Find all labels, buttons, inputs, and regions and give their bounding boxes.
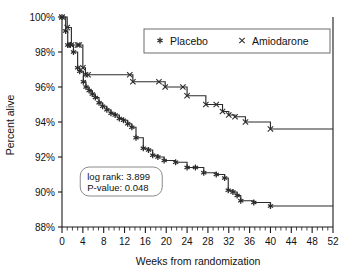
x-tick-label: 40 (265, 236, 277, 247)
statistics-box-line: P-value: 0.048 (87, 182, 148, 193)
x-tick-label: 20 (161, 236, 173, 247)
x-tick-label: 4 (80, 236, 86, 247)
x-tick-label: 52 (327, 236, 339, 247)
x-tick-label: 28 (202, 236, 214, 247)
x-tick-label: 48 (307, 236, 319, 247)
y-tick-label: 90% (35, 187, 55, 198)
y-tick-label: 88% (35, 222, 55, 233)
survival-chart: 88%90%92%94%96%98%100% 04812162024283236… (0, 0, 347, 274)
x-tick-label: 32 (223, 236, 235, 247)
legend-label-amiodarone: Amiodarone (252, 35, 309, 47)
chart-legend: PlaceboAmiodarone (144, 29, 330, 53)
x-tick-label: 0 (59, 236, 65, 247)
y-tick-label: 96% (35, 82, 55, 93)
x-tick-label: 8 (101, 236, 107, 247)
x-tick-label: 12 (119, 236, 131, 247)
x-axis-title: Weeks from randomization (136, 255, 261, 267)
y-tick-label: 100% (29, 12, 55, 23)
y-axis-title: Percent alive (4, 94, 16, 155)
x-tick-label: 36 (244, 236, 256, 247)
statistics-box-line: log rank: 3.899 (87, 171, 150, 182)
y-tick-label: 92% (35, 152, 55, 163)
y-tick-label: 94% (35, 117, 55, 128)
chart-annotations: log rank: 3.899P-value: 0.048 (80, 167, 162, 196)
x-tick-label: 16 (140, 236, 152, 247)
y-tick-label: 98% (35, 47, 55, 58)
x-tick-label: 24 (182, 236, 194, 247)
legend-label-placebo: Placebo (170, 35, 208, 47)
x-tick-label: 44 (286, 236, 298, 247)
chart-canvas: 88%90%92%94%96%98%100% 04812162024283236… (0, 0, 347, 274)
